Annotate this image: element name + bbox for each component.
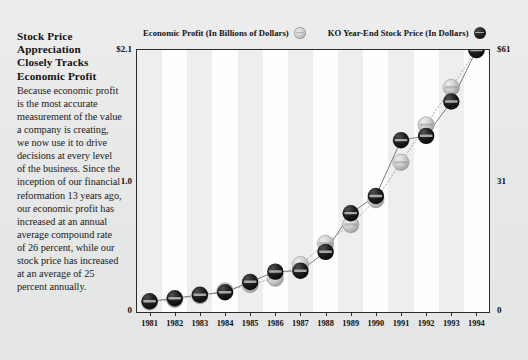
x-axis-tick-mark [275, 313, 276, 316]
x-axis-tick-label: 1983 [191, 319, 208, 328]
series-layer: 1981: 0.08 B1982: 0.1 B1983: 0.13 B1984:… [137, 50, 489, 312]
x-axis-tick-label: 1993 [443, 319, 460, 328]
data-point-stock-price[interactable]: 1986: $9.4 [267, 263, 283, 279]
data-point-stock-price[interactable]: 1983: $4 [192, 287, 208, 303]
dark-bottlecap-icon [474, 27, 486, 39]
data-point-stock-price[interactable]: 1992: $41 [418, 128, 434, 144]
cap-wordmark [344, 212, 357, 214]
x-axis-tick-label: 1990 [367, 319, 384, 328]
cap-wordmark [168, 297, 181, 299]
legend-label-stock-price: KO Year-End Stock Price (In Dollars) [328, 28, 469, 38]
chart-svg: 1981: 0.08 B1982: 0.1 B1983: 0.13 B1984:… [137, 50, 489, 312]
x-axis-tick-mark [200, 313, 201, 316]
x-axis-tick-label: 1986 [267, 319, 284, 328]
y-axis-tick-left-zero: 0 [90, 305, 132, 315]
cap-wordmark [319, 251, 332, 253]
page-title: Stock PriceAppreciationClosely TracksEco… [17, 30, 122, 83]
x-axis-tick-label: 1994 [468, 319, 485, 328]
data-point-stock-price[interactable]: 1988: $14 [317, 244, 333, 260]
light-gray-cap-icon [294, 27, 306, 39]
x-axis-tick-label: 1982 [166, 319, 183, 328]
cap-wordmark [395, 161, 408, 163]
x-axis-tick-mark [150, 313, 151, 316]
data-point-economic-profit[interactable]: 1993: 1.8 B [443, 79, 459, 95]
chart-figure: Stock PriceAppreciationClosely TracksEco… [0, 0, 528, 360]
x-axis-tick-label: 1985 [242, 319, 259, 328]
x-axis-tick-label: 1984 [217, 319, 234, 328]
x-axis-tick-label: 1987 [292, 319, 309, 328]
x-axis-tick-mark [225, 313, 226, 316]
data-point-stock-price[interactable]: 1990: $27 [368, 188, 384, 204]
y-axis-tick-left-max: $2.1 [90, 44, 132, 54]
series-line [150, 50, 477, 302]
data-point-economic-profit[interactable]: 1991: 1.2 B [393, 154, 409, 170]
x-axis-tick-label: 1989 [342, 319, 359, 328]
x-axis-tick-mark [351, 313, 352, 316]
x-axis-labels: 1981198219831984198519861987198819891990… [136, 319, 490, 331]
y-axis-tick-right-zero: 0 [497, 305, 528, 315]
data-point-stock-price[interactable]: 1991: $40 [393, 132, 409, 148]
chart-legend: Economic Profit (In Billions of Dollars)… [136, 24, 496, 41]
legend-item-stock-price[interactable]: KO Year-End Stock Price (In Dollars) [328, 27, 486, 39]
x-axis-tick-mark [426, 313, 427, 316]
sidebar-text-column: Stock PriceAppreciationClosely TracksEco… [17, 30, 122, 293]
cap-wordmark [219, 291, 232, 293]
data-point-stock-price[interactable]: 1993: $49 [443, 93, 459, 109]
cap-wordmark [445, 86, 458, 88]
y-axis-tick-right-mid: 31 [497, 176, 528, 186]
y-axis-tick-right-max: $61 [497, 44, 528, 54]
sidebar-body-text: Because economic profit is the most accu… [17, 84, 122, 294]
x-axis-tick-mark [476, 313, 477, 316]
x-axis-tick-mark [451, 313, 452, 316]
plot-area: 1981: 0.08 B1982: 0.1 B1983: 0.13 B1984:… [136, 49, 490, 313]
cap-wordmark [244, 281, 257, 283]
cap-wordmark [344, 223, 357, 225]
cap-wordmark [445, 100, 458, 102]
cap-wordmark [369, 195, 382, 197]
x-axis-tick-label: 1981 [141, 319, 158, 328]
y-axis-tick-left-mid: 1.0 [90, 176, 132, 186]
cap-wordmark [193, 294, 206, 296]
data-point-stock-price[interactable]: 1987: $9.6 [292, 263, 308, 279]
x-axis-tick-label: 1991 [393, 319, 410, 328]
x-axis-tick-mark [376, 313, 377, 316]
x-axis-tick-mark [300, 313, 301, 316]
cap-wordmark [269, 270, 282, 272]
x-axis-tick-mark [250, 313, 251, 316]
data-point-stock-price[interactable]: 1985: $7 [242, 274, 258, 290]
series-line [150, 50, 477, 301]
data-point-stock-price[interactable]: 1984: $4.6 [217, 284, 233, 300]
data-point-stock-price[interactable]: 1981: $2.5 [141, 293, 157, 309]
x-axis-tick-mark [401, 313, 402, 316]
cap-wordmark [143, 300, 156, 302]
x-axis-tick-label: 1988 [317, 319, 334, 328]
x-axis-tick-label: 1992 [418, 319, 435, 328]
cap-wordmark [470, 50, 483, 51]
data-point-stock-price[interactable]: 1982: $3.2 [167, 290, 183, 306]
cap-wordmark [420, 135, 433, 137]
data-point-stock-price[interactable]: 1994: $61 [468, 50, 484, 58]
x-axis-tick-mark [175, 313, 176, 316]
cap-wordmark [395, 139, 408, 141]
data-point-stock-price[interactable]: 1989: $23 [343, 205, 359, 221]
legend-label-economic-profit: Economic Profit (In Billions of Dollars) [143, 28, 289, 38]
cap-wordmark [420, 124, 433, 126]
x-axis-tick-mark [326, 313, 327, 316]
legend-item-economic-profit[interactable]: Economic Profit (In Billions of Dollars) [143, 27, 306, 39]
cap-wordmark [294, 269, 307, 271]
